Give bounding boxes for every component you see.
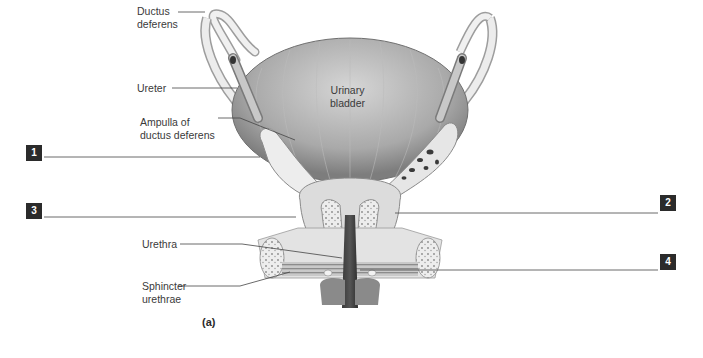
figure-caption: (a) bbox=[202, 316, 215, 328]
label-ductus-deferens: Ductus deferens bbox=[137, 5, 178, 31]
label-urinary-bladder: Urinary bladder bbox=[330, 84, 365, 110]
anatomy-illustration bbox=[0, 0, 703, 358]
numbered-label-3[interactable]: 3 bbox=[26, 203, 42, 219]
label-urethra: Urethra bbox=[142, 238, 177, 251]
penile-bulb bbox=[320, 278, 345, 305]
numbered-label-2[interactable]: 2 bbox=[660, 195, 676, 211]
numbered-label-1[interactable]: 1 bbox=[26, 145, 42, 161]
label-ureter: Ureter bbox=[137, 82, 166, 95]
label-ampulla: Ampulla of ductus deferens bbox=[140, 116, 215, 142]
numbered-label-4[interactable]: 4 bbox=[660, 254, 676, 270]
label-sphincter-urethrae: Sphincter urethrae bbox=[142, 280, 186, 306]
